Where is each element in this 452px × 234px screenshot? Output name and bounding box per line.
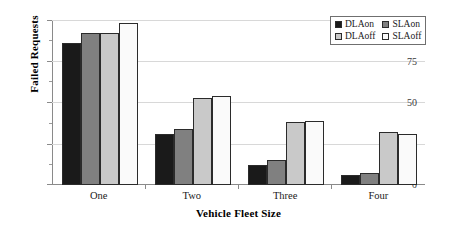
x-tick-mark xyxy=(331,185,332,189)
legend-label-dlaon: DLAon xyxy=(345,20,374,30)
bar-group xyxy=(146,20,239,185)
bar[interactable] xyxy=(360,173,379,185)
bar-set xyxy=(248,20,324,185)
y-tick-minor-375 xyxy=(49,123,52,124)
bar[interactable] xyxy=(100,33,119,185)
bar[interactable] xyxy=(155,134,174,185)
bar-set xyxy=(62,20,138,185)
x-tick-label: One xyxy=(52,190,145,201)
legend-item-dlaon[interactable]: DLAon xyxy=(335,20,375,30)
bar[interactable] xyxy=(379,132,398,185)
bar-chart: Failed Requests 100 75 50 25 0 OneTwoThr… xyxy=(0,0,452,234)
y-tick-minor-875 xyxy=(49,40,52,41)
legend-swatch-dlaon xyxy=(335,21,342,28)
bar-group xyxy=(53,20,146,185)
y-tick-minor-125 xyxy=(49,164,52,165)
legend-label-dlaoff: DLAoff xyxy=(345,32,375,42)
bar-group xyxy=(239,20,332,185)
bar[interactable] xyxy=(119,23,138,185)
legend-item-slaon[interactable]: SLAon xyxy=(382,20,421,30)
y-tick-mark-0 xyxy=(47,184,52,185)
legend-swatch-dlaoff xyxy=(335,33,342,40)
bar[interactable] xyxy=(212,96,231,185)
bar[interactable] xyxy=(286,122,305,185)
legend: DLAon SLAon DLAoff SLAoff xyxy=(330,16,426,45)
bar[interactable] xyxy=(193,98,212,185)
bar[interactable] xyxy=(305,121,324,185)
bar-set xyxy=(155,20,231,185)
y-tick-mark-50 xyxy=(47,102,52,103)
y-tick-mark-25 xyxy=(47,144,52,145)
legend-label-slaoff: SLAoff xyxy=(392,32,421,42)
y-tick-mark-75 xyxy=(47,61,52,62)
y-axis-title: Failed Requests xyxy=(28,0,40,134)
bar[interactable] xyxy=(174,129,193,185)
x-tick-mark xyxy=(145,185,146,189)
legend-item-dlaoff[interactable]: DLAoff xyxy=(335,32,375,42)
legend-swatch-slaoff xyxy=(382,33,389,40)
legend-item-slaoff[interactable]: SLAoff xyxy=(382,32,421,42)
x-tick-label: Three xyxy=(239,190,332,201)
legend-swatch-slaon xyxy=(382,21,389,28)
y-tick-minor-625 xyxy=(49,81,52,82)
x-tick-label: Four xyxy=(332,190,425,201)
legend-label-slaon: SLAon xyxy=(392,20,419,30)
bar[interactable] xyxy=(62,43,81,185)
bar[interactable] xyxy=(248,165,267,185)
x-tick-label: Two xyxy=(145,190,238,201)
x-axis-title: Vehicle Fleet Size xyxy=(52,207,425,219)
bar[interactable] xyxy=(267,160,286,185)
bar[interactable] xyxy=(81,33,100,185)
bar[interactable] xyxy=(341,175,360,185)
x-tick-mark xyxy=(238,185,239,189)
y-tick-mark-100 xyxy=(47,20,52,21)
bar[interactable] xyxy=(398,134,417,185)
